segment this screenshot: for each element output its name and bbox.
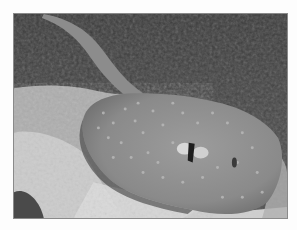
photo-canvas xyxy=(14,14,287,218)
stingray-photo xyxy=(13,13,288,219)
